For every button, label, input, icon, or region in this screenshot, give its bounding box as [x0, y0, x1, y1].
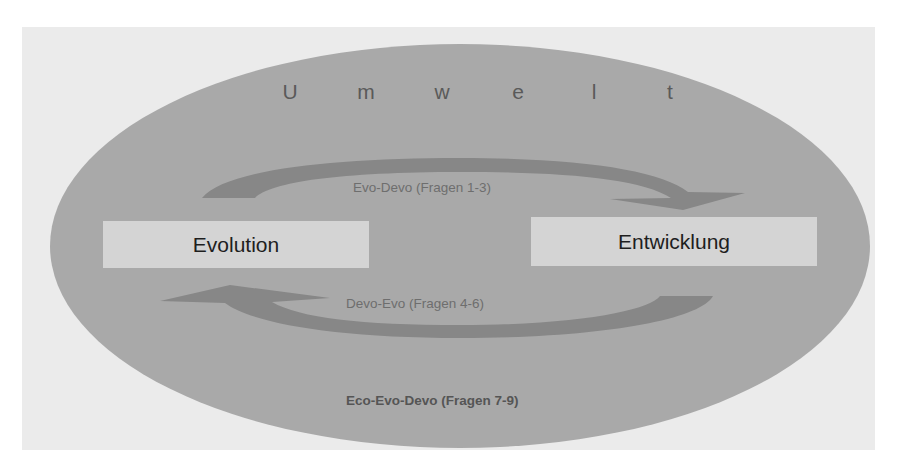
evo-devo-label: Evo-Devo (Fragen 1-3): [353, 180, 491, 195]
environment-letter: t: [660, 80, 680, 110]
environment-letter: U: [280, 80, 300, 110]
environment-letter: w: [432, 80, 452, 110]
evolution-label: Evolution: [193, 233, 279, 257]
evolution-box: Evolution: [103, 221, 369, 268]
entwicklung-box: Entwicklung: [531, 217, 817, 266]
eco-evo-devo-label: Eco-Evo-Devo (Fragen 7-9): [346, 393, 519, 408]
entwicklung-label: Entwicklung: [618, 230, 730, 254]
environment-letter: m: [356, 80, 376, 110]
environment-label: U m w e l t: [280, 80, 680, 110]
environment-letter: e: [508, 80, 528, 110]
devo-evo-label: Devo-Evo (Fragen 4-6): [346, 296, 484, 311]
environment-letter: l: [584, 80, 604, 110]
